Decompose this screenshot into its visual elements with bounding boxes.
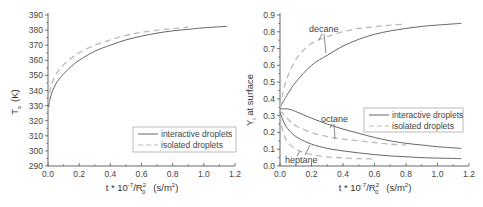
right-y-axis-title: Yi at surface — [244, 74, 257, 126]
y-tick-label: 330 — [29, 101, 43, 111]
right-legend: interactive droplets isolated droplets — [364, 108, 463, 132]
y-tick-label: 0.1 — [263, 144, 275, 154]
left-legend: interactive droplets isolated droplets — [133, 127, 236, 152]
left-curves — [48, 26, 227, 113]
y-tick-label: 0.6 — [263, 60, 275, 70]
legend-interactive-label: interactive droplets — [161, 129, 232, 139]
y-tick-label: 0.3 — [263, 111, 275, 121]
y-tick-label: 0.2 — [263, 127, 275, 137]
series-line — [280, 23, 461, 107]
right-x-axis-title: t * 10-7/R20(s/m2) — [339, 182, 412, 195]
x-tick-label: 0.4 — [104, 169, 116, 179]
x-tick-label: 0.8 — [400, 169, 412, 179]
y-tick-label: 310 — [29, 131, 43, 141]
y-tick-label: 300 — [29, 146, 43, 156]
annotation-heptane: heptane — [285, 155, 318, 165]
left-x-axis-title: t * 10-7/R20(s/m2) — [106, 182, 179, 195]
y-tick-label: 0.8 — [263, 27, 275, 37]
y-tick-label: 0.9 — [263, 10, 275, 20]
y-tick-label: 380 — [29, 25, 43, 35]
x-tick-label: 0.6 — [369, 169, 381, 179]
y-tick-label: 320 — [29, 116, 43, 126]
annotation-octane: octane — [321, 114, 348, 124]
y-tick-label: 0.4 — [263, 94, 275, 104]
x-tick-label: 1.2 — [229, 169, 241, 179]
y-tick-label: 350 — [29, 70, 43, 80]
x-tick-label: 0.0 — [274, 169, 286, 179]
left-plot-ts: 0.00.20.40.60.81.01.22903003103203303403… — [9, 10, 241, 195]
x-tick-label: 0.6 — [136, 169, 148, 179]
x-tick-label: 1.0 — [432, 169, 444, 179]
decane-arrow-interactive — [324, 34, 326, 53]
x-tick-label: 0.2 — [306, 169, 318, 179]
legend-interactive-label: interactive droplets — [392, 110, 463, 120]
right-curves — [280, 23, 461, 159]
y-tick-label: 290 — [29, 161, 43, 171]
x-tick-label: 0.2 — [73, 169, 85, 179]
x-tick-label: 0.0 — [42, 169, 54, 179]
legend-isolated-label: isolated droplets — [161, 140, 223, 150]
y-tick-label: 390 — [29, 10, 43, 20]
y-tick-label: 370 — [29, 40, 43, 50]
y-tick-label: 0.5 — [263, 77, 275, 87]
y-tick-label: 360 — [29, 55, 43, 65]
x-tick-label: 1.2 — [463, 169, 475, 179]
left-axes: 0.00.20.40.60.81.01.22903003103203303403… — [29, 10, 241, 179]
x-tick-label: 1.0 — [198, 169, 210, 179]
series-line — [280, 24, 406, 107]
x-tick-label: 0.8 — [167, 169, 179, 179]
y-tick-label: 0.7 — [263, 44, 275, 54]
legend-isolated-label: isolated droplets — [392, 121, 454, 131]
series-line — [48, 27, 188, 113]
annotation-decane: decane — [309, 24, 339, 34]
series-line — [48, 26, 227, 113]
right-plot-yi: 0.00.20.40.60.81.01.20.00.10.20.30.40.50… — [244, 10, 475, 195]
y-tick-label: 340 — [29, 86, 43, 96]
x-tick-label: 0.4 — [337, 169, 349, 179]
figure: 0.00.20.40.60.81.01.22903003103203303403… — [0, 0, 483, 207]
y-tick-label: 0.0 — [263, 161, 275, 171]
left-y-axis-title: Ts(K) — [9, 89, 22, 114]
